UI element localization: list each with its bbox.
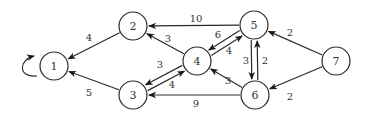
graph-node-4: 4: [183, 47, 211, 75]
node-label: 6: [252, 89, 259, 102]
graph-node-7: 7: [322, 47, 350, 75]
edge-3-to-1: [69, 72, 119, 90]
edge-weight-label: 3: [165, 33, 171, 44]
edge-weight-label: 6: [215, 29, 221, 40]
graph-diagram: 453103496433222 1234567: [0, 0, 368, 115]
edge-6-to-5: [257, 41, 258, 80]
node-label: 1: [51, 60, 58, 73]
graph-node-2: 2: [119, 12, 147, 40]
edge-weight-label: 2: [262, 55, 268, 66]
edge-weight-label: 10: [190, 13, 203, 24]
edge-5-to-2: [149, 25, 239, 26]
graph-node-5: 5: [240, 11, 268, 39]
edge-weight-label: 4: [226, 45, 232, 56]
edge-weight-label: 3: [225, 75, 231, 86]
edge-weight-label: 3: [157, 59, 163, 70]
edge-weight-label: 4: [169, 79, 175, 90]
edge-weight-label: 2: [287, 27, 293, 38]
node-label: 7: [333, 55, 340, 68]
graph-node-6: 6: [241, 81, 269, 109]
edge-weight-label: 5: [86, 87, 92, 98]
edge-weight-label: 9: [193, 98, 199, 109]
edge-weight-label: 2: [287, 91, 293, 102]
edge-7-to-5: [269, 31, 323, 55]
graph-node-3: 3: [119, 81, 147, 109]
edge-2-to-1: [68, 33, 119, 59]
graph-node-1: 1: [40, 52, 68, 80]
node-label: 3: [130, 89, 137, 102]
edge-7-to-6: [270, 67, 322, 89]
graph-svg: 453103496433222 1234567: [0, 0, 368, 115]
self-loop-edge-1: [22, 56, 37, 76]
edge-5-to-6: [251, 40, 252, 79]
node-label: 5: [251, 19, 258, 32]
node-label: 2: [130, 20, 137, 33]
edge-weight-label: 4: [86, 32, 92, 43]
node-label: 4: [194, 55, 201, 68]
edge-weight-label: 3: [243, 55, 249, 66]
